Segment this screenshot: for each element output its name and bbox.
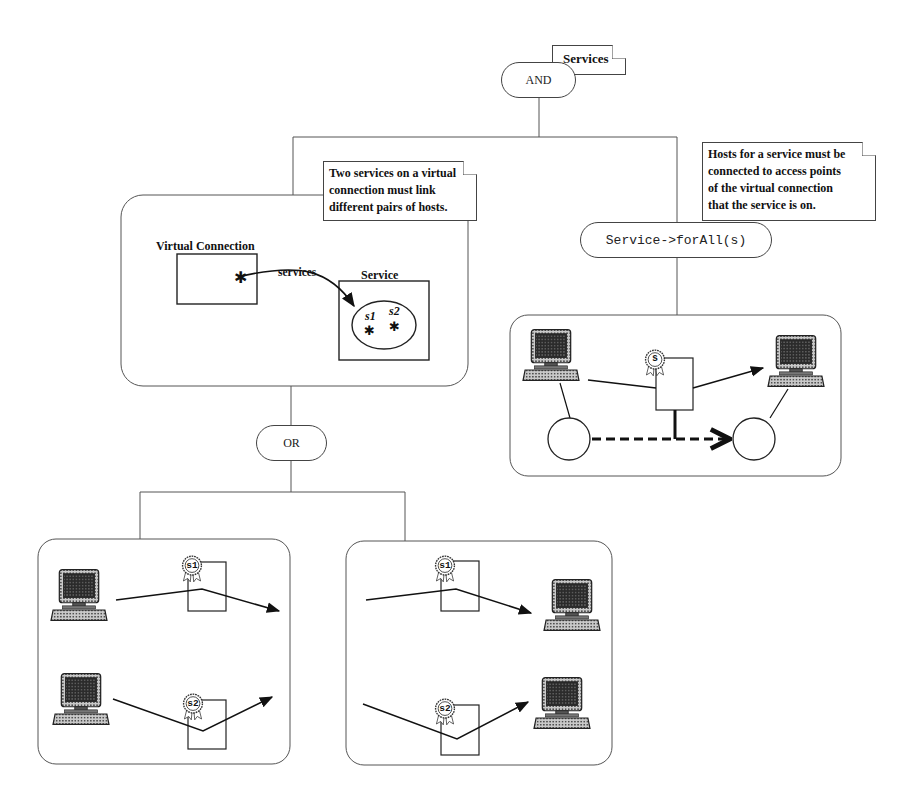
instance-label-s2: s2 xyxy=(389,304,400,319)
diagram-canvas: ✱ ✱ ✱ xyxy=(0,0,914,803)
host-computer-icon xyxy=(534,678,590,729)
note-line: Hosts for a service must be xyxy=(708,146,859,163)
badge-label-s2: s2 xyxy=(438,703,452,714)
alternative-right-scene xyxy=(346,541,612,765)
badge-label-s1: s1 xyxy=(438,560,452,571)
and-operator-label: AND xyxy=(526,73,552,88)
virtual-connection-label: Virtual Connection xyxy=(156,239,255,254)
host-computer-icon xyxy=(53,674,109,725)
access-point-circle xyxy=(548,418,590,460)
note-line: that the service is on. xyxy=(708,197,859,214)
left-constraint-note: Two services on a virtual connection mus… xyxy=(323,161,477,221)
badge-label-s2: s2 xyxy=(186,698,200,709)
forall-scene xyxy=(510,315,841,476)
or-operator-label: OR xyxy=(283,436,300,451)
host-computer-icon xyxy=(544,580,600,631)
forall-quantifier-node: Service->forAll(s) xyxy=(580,222,772,258)
asterisk-icon: ✱ xyxy=(234,268,247,287)
right-constraint-note: Hosts for a service must be connected to… xyxy=(702,142,876,221)
note-line: connection must link xyxy=(329,182,460,199)
constraint-schema-box: ✱ ✱ ✱ xyxy=(121,195,468,386)
note-fold-icon xyxy=(612,45,626,59)
service-instances-set xyxy=(352,301,416,349)
forall-quantifier-label: Service->forAll(s) xyxy=(606,233,746,248)
note-line: different pairs of hosts. xyxy=(329,199,460,216)
host-computer-icon xyxy=(523,330,579,381)
note-fold-icon xyxy=(862,142,876,156)
host-computer-icon xyxy=(768,336,824,387)
badge-label-s: s xyxy=(651,353,659,364)
asterisk-icon: ✱ xyxy=(364,323,375,338)
or-operator-node: OR xyxy=(256,425,327,461)
service-class-label: Service xyxy=(361,268,398,283)
asterisk-icon: ✱ xyxy=(389,319,400,334)
alternative-left-scene xyxy=(38,539,290,764)
note-fold-icon xyxy=(463,161,477,175)
note-line: connected to access points xyxy=(708,163,859,180)
instance-label-s1: s1 xyxy=(365,309,376,324)
services-title-label: Services xyxy=(563,51,608,66)
access-point-circle xyxy=(733,418,775,460)
note-line: Two services on a virtual xyxy=(329,165,460,182)
badge-label-s1: s1 xyxy=(185,560,199,571)
host-computer-icon xyxy=(51,570,107,621)
note-line: of the virtual connection xyxy=(708,180,859,197)
services-association-label: services xyxy=(278,266,316,278)
and-operator-node: AND xyxy=(501,62,576,98)
